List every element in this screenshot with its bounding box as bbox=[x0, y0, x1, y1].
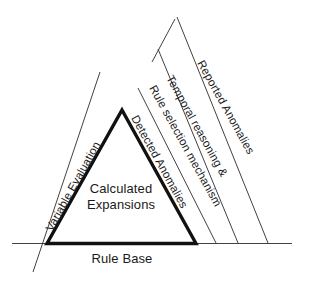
diagram-canvas: Calculated Expansions Rule Base Variable… bbox=[0, 0, 314, 291]
right-edge-extension-line bbox=[152, 19, 175, 62]
center-label-line1: Calculated bbox=[90, 181, 152, 196]
base-label: Rule Base bbox=[92, 251, 153, 266]
center-label-line2: Expansions bbox=[87, 197, 156, 212]
triangle-diagram: Calculated Expansions Rule Base Variable… bbox=[0, 0, 314, 291]
fan-line-3 bbox=[177, 17, 268, 243]
